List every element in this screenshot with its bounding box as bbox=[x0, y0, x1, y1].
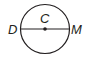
label-endpoint-M: M bbox=[71, 23, 82, 36]
label-center-C: C bbox=[40, 12, 49, 25]
circle-diagram: C D M bbox=[0, 0, 87, 59]
label-endpoint-D: D bbox=[8, 23, 17, 36]
center-point bbox=[43, 27, 47, 31]
